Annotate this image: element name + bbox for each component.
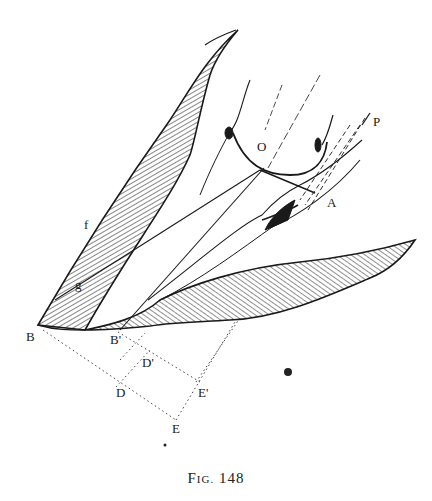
- figure-drawing: [0, 0, 432, 501]
- label-B: B: [26, 330, 35, 343]
- label-g: g: [75, 278, 82, 291]
- construction-lines: [43, 318, 292, 447]
- label-O: O: [257, 140, 266, 153]
- label-P: P: [373, 115, 380, 128]
- figure-caption: FIG. 148: [0, 470, 432, 487]
- label-D-prime: D': [142, 356, 154, 369]
- caption-prefix-big: F: [188, 470, 197, 486]
- caption-number: 148: [219, 470, 245, 486]
- anatomical-figure: P O A f g B B' D' D E' E FIG. 148: [0, 0, 432, 501]
- label-D: D: [116, 386, 125, 399]
- label-E: E: [172, 422, 180, 435]
- label-B-prime: B': [110, 333, 121, 346]
- label-E-prime: E': [198, 386, 208, 399]
- label-A: A: [327, 196, 336, 209]
- caption-prefix-small: IG.: [197, 473, 214, 485]
- label-f: f: [84, 218, 88, 231]
